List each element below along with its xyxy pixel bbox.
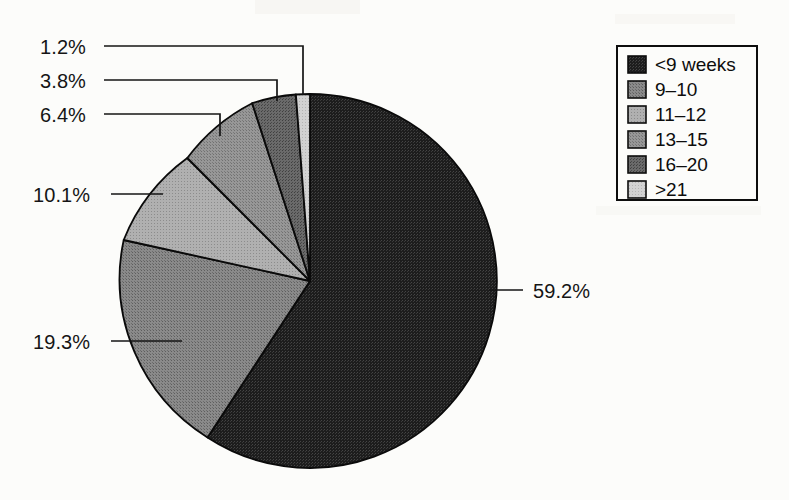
legend-item-9-10[interactable]: 9–10 [628, 79, 697, 100]
legend-label-9-10: 9–10 [655, 79, 697, 100]
legend-swatch-16-20 [628, 156, 646, 173]
legend-label-13-15: 13–15 [655, 129, 708, 150]
legend-label-lt9-weeks: <9 weeks [655, 54, 736, 75]
chart-canvas: 1.2% 3.8% 6.4% 10.1% 19.3% 59.2% <9 week… [0, 0, 789, 500]
legend-label-11-12: 11–12 [655, 104, 706, 125]
legend-label-gt21: >21 [655, 179, 687, 200]
legend-label-16-20: 16–20 [655, 154, 708, 175]
leader-line-16-20 [104, 80, 277, 101]
legend-swatch-11-12 [628, 106, 646, 123]
callout-label-lt9-weeks: 59.2% [533, 280, 590, 302]
legend-swatch-gt21 [628, 181, 646, 198]
legend-item-11-12[interactable]: 11–12 [628, 104, 706, 125]
legend-item-gt21[interactable]: >21 [628, 179, 687, 200]
callout-label-16-20: 3.8% [40, 70, 86, 92]
pie-chart-figure: 1.2% 3.8% 6.4% 10.1% 19.3% 59.2% <9 week… [0, 0, 789, 500]
leader-line-gt21 [104, 46, 303, 95]
legend-swatch-lt9-weeks [628, 56, 646, 73]
legend-item-16-20[interactable]: 16–20 [628, 154, 708, 175]
legend-swatch-9-10 [628, 81, 646, 98]
callout-label-9-10: 19.3% [33, 331, 90, 353]
callout-label-gt21: 1.2% [40, 36, 86, 58]
legend-swatch-13-15 [628, 131, 646, 148]
legend-item-13-15[interactable]: 13–15 [628, 129, 708, 150]
legend: <9 weeks 9–10 11–12 13–15 16–20 [617, 46, 757, 200]
callout-label-11-12: 10.1% [33, 184, 90, 206]
leader-line-13-15 [104, 114, 220, 136]
callout-label-13-15: 6.4% [40, 104, 86, 126]
legend-item-lt9-weeks[interactable]: <9 weeks [628, 54, 736, 75]
